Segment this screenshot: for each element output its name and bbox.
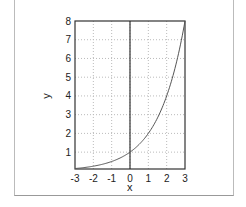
y-tick-label: 4 [65,90,71,101]
x-tick-label: -1 [107,173,116,184]
y-tick-label: 8 [65,16,71,27]
x-axis-label: x [127,181,133,193]
y-tick-label: 5 [65,72,71,83]
x-tick-label: 3 [182,173,188,184]
y-tick-label: 1 [65,147,71,158]
y-axis-label: y [40,93,52,99]
x-tick-label: -2 [89,173,98,184]
y-tick-label: 7 [65,34,71,45]
x-tick-label: 1 [146,173,152,184]
x-tick-label: -3 [71,173,80,184]
line-chart: -3-2-1012312345678 [0,0,246,207]
y-tick-label: 3 [65,109,71,120]
x-tick-label: 2 [164,173,170,184]
y-tick-label: 6 [65,53,71,64]
y-tick-label: 2 [65,128,71,139]
